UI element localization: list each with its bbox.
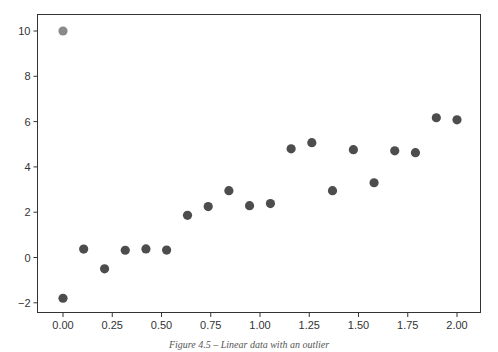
data-point [245, 201, 254, 210]
x-axis: 0.000.250.500.751.001.251.501.752.00 [52, 313, 467, 331]
data-point [79, 245, 88, 254]
figure-caption: Figure 4.5 – Linear data with an outlier [0, 339, 498, 350]
x-tick-label: 1.75 [397, 319, 418, 331]
data-point [121, 246, 130, 255]
scatter-chart: 0.000.250.500.751.001.251.501.752.00 −20… [0, 0, 498, 336]
data-point [432, 113, 441, 122]
data-point [287, 144, 296, 153]
y-tick-label: 2 [24, 206, 30, 218]
data-point [204, 202, 213, 211]
x-tick-label: 0.50 [151, 319, 172, 331]
y-tick-label: 10 [18, 25, 30, 37]
x-tick-label: 2.00 [446, 319, 467, 331]
data-point [58, 294, 67, 303]
data-point [141, 244, 150, 253]
data-point [183, 211, 192, 220]
y-axis: −20246810 [18, 25, 38, 309]
x-tick-label: 0.75 [200, 319, 221, 331]
data-point [390, 146, 399, 155]
y-tick-label: 0 [24, 252, 30, 264]
data-point [411, 148, 420, 157]
data-point [369, 178, 378, 187]
data-point [224, 186, 233, 195]
y-tick-label: 4 [24, 161, 30, 173]
y-tick-label: 6 [24, 116, 30, 128]
data-point [349, 145, 358, 154]
x-tick-label: 1.25 [299, 319, 320, 331]
y-tick-label: 8 [24, 70, 30, 82]
data-point [100, 264, 109, 273]
x-tick-label: 1.00 [249, 319, 270, 331]
y-tick-label: −2 [18, 297, 31, 309]
data-point [452, 115, 461, 124]
data-point [328, 186, 337, 195]
x-tick-label: 1.50 [348, 319, 369, 331]
data-point [162, 245, 171, 254]
x-tick-label: 0.00 [52, 319, 73, 331]
x-tick-label: 0.25 [102, 319, 123, 331]
data-point [266, 199, 275, 208]
data-point [307, 138, 316, 147]
outlier-point [58, 26, 67, 35]
